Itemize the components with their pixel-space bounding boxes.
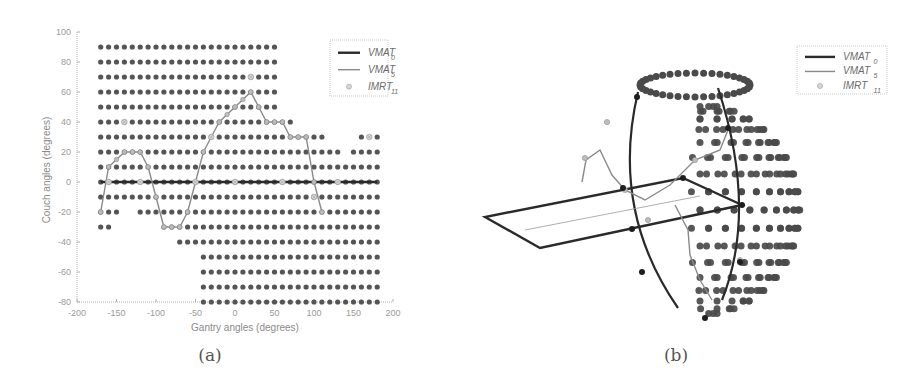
y-tick-label: -60 [58, 267, 71, 277]
y-tick-label: 80 [61, 57, 71, 67]
legend-subscript: 11 [874, 87, 881, 94]
panel-b-legend: VMAT0VMAT5IMRT11 [797, 46, 887, 94]
x-tick-label: 50 [269, 308, 279, 318]
y-tick-label: 60 [61, 87, 71, 97]
x-tick-label: -50 [189, 308, 202, 318]
legend-label: VMAT [843, 65, 871, 76]
legend-subscript: 5 [391, 71, 395, 78]
x-tick-label: 200 [385, 308, 400, 318]
caption-b: (b) [664, 345, 688, 365]
x-axis-label: Gantry angles (degrees) [191, 322, 299, 333]
panel-a-legend: VMAT0VMAT5IMRT11 [330, 40, 398, 96]
vmat5-line [101, 92, 322, 227]
y-tick-label: -40 [58, 237, 71, 247]
caption-a: (a) [198, 345, 221, 365]
x-tick-label: -200 [68, 308, 86, 318]
y-tick-label: 20 [61, 147, 71, 157]
y-tick-label: 100 [56, 27, 71, 37]
y-tick-label: 0 [66, 177, 71, 187]
sphere-trajectory-lines [485, 88, 745, 321]
legend-label: IMRT [368, 81, 393, 92]
panel-a-scatter-plot: 100806040200-20-40-60-80-200-150-100-500… [41, 27, 401, 365]
x-tick-label: 150 [346, 308, 361, 318]
x-tick-label: 100 [306, 308, 321, 318]
legend-label: IMRT [843, 80, 868, 91]
x-tick-label: 0 [232, 308, 237, 318]
figure: 100806040200-20-40-60-80-200-150-100-500… [0, 0, 923, 389]
x-tick-label: -150 [107, 308, 125, 318]
panel-b-sphere-plot: VMAT0VMAT5IMRT11 (b) [485, 46, 887, 365]
x-tick-label: -100 [147, 308, 165, 318]
y-tick-label: 40 [61, 117, 71, 127]
legend-subscript: 0 [874, 58, 878, 65]
trajectory-lines [98, 90, 377, 230]
y-tick-label: -80 [58, 297, 71, 307]
legend-label: VMAT [843, 51, 871, 62]
y-tick-label: -20 [58, 207, 71, 217]
legend-subscript: 0 [391, 54, 395, 61]
legend-subscript: 5 [874, 72, 878, 79]
y-axis-label: Couch angles (degrees) [41, 117, 52, 224]
legend-subscript: 11 [391, 88, 398, 95]
